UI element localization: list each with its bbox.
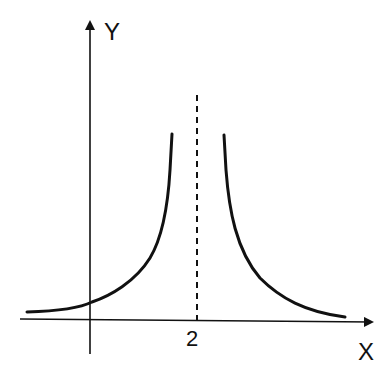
x-tick-label-2: 2: [186, 326, 198, 351]
y-axis-label: Y: [104, 18, 120, 45]
right-branch-curve: [224, 135, 345, 317]
function-plot: Y X 2: [0, 0, 389, 382]
x-axis-label: X: [358, 338, 374, 365]
left-branch-curve: [27, 134, 172, 312]
